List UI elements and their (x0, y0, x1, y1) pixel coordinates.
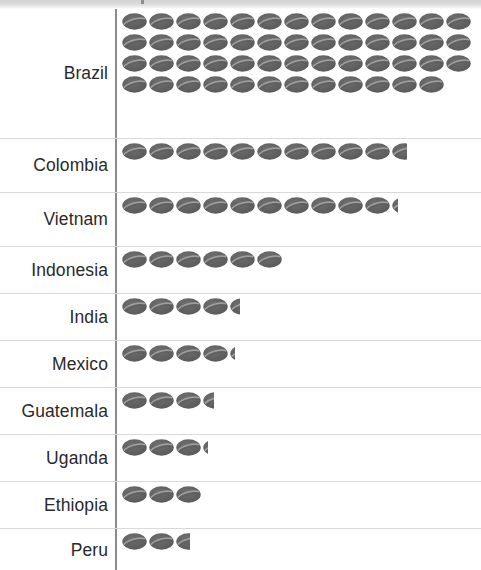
coffee-bean-icon (149, 345, 174, 362)
icon-slot (257, 251, 284, 272)
icon-slot (257, 143, 284, 164)
icon-slot (149, 298, 176, 319)
chart-row: Indonesia (0, 247, 481, 294)
chart-row: Ethiopia (0, 482, 481, 529)
coffee-bean-icon (176, 13, 201, 30)
coffee-bean-icon (419, 76, 444, 93)
coffee-bean-icon (230, 34, 255, 51)
icon-slot (338, 143, 365, 164)
coffee-bean-icon (311, 13, 336, 30)
icon-slot (230, 76, 257, 97)
coffee-bean-icon (365, 76, 390, 93)
coffee-bean-icon (419, 13, 444, 30)
coffee-bean-icon (149, 298, 174, 315)
coffee-bean-icon (257, 76, 282, 93)
coffee-bean-icon (446, 55, 471, 72)
icon-slot (284, 197, 311, 218)
coffee-bean-partial-icon (203, 392, 214, 409)
coffee-bean-icon (392, 55, 417, 72)
coffee-bean-icon (230, 143, 255, 160)
icon-slot (446, 55, 473, 76)
icon-slot (203, 13, 230, 34)
row-label-india: India (0, 294, 108, 340)
chart-row: Mexico (0, 341, 481, 388)
icon-slot (122, 486, 149, 507)
icon-slot (365, 143, 392, 164)
icon-slot (122, 533, 149, 554)
coffee-bean-icon (365, 143, 390, 160)
icon-slot (392, 34, 419, 55)
icon-slot (176, 13, 203, 34)
coffee-bean-icon (122, 13, 147, 30)
coffee-bean-icon (176, 439, 201, 456)
icon-slot (257, 76, 284, 97)
coffee-bean-icon (230, 197, 255, 214)
icon-slot (311, 143, 338, 164)
icon-slot (122, 13, 149, 34)
icon-slot (122, 34, 149, 55)
coffee-bean-icon (149, 55, 174, 72)
row-label-vietnam: Vietnam (0, 193, 108, 246)
chart-row: Vietnam (0, 193, 481, 247)
row-label-colombia: Colombia (0, 139, 108, 192)
icon-slot (203, 345, 230, 366)
icon-slot (257, 197, 284, 218)
chart-row: Peru (0, 529, 481, 570)
cropped-top-band (0, 0, 481, 9)
coffee-bean-icon (419, 34, 444, 51)
icon-slot (122, 197, 149, 218)
coffee-bean-icon (176, 143, 201, 160)
coffee-bean-icon (338, 197, 363, 214)
coffee-bean-icon (176, 392, 201, 409)
row-icons (122, 388, 479, 434)
coffee-bean-icon (338, 13, 363, 30)
coffee-bean-icon (122, 76, 147, 93)
icon-slot (149, 197, 176, 218)
icon-slot (149, 439, 176, 460)
coffee-bean-icon (284, 34, 309, 51)
coffee-bean-icon (203, 298, 228, 315)
icon-slot (176, 143, 203, 164)
row-icons (122, 341, 479, 387)
coffee-bean-icon (203, 143, 228, 160)
coffee-bean-icon (149, 392, 174, 409)
icon-slot (122, 143, 149, 164)
coffee-bean-icon (176, 76, 201, 93)
icon-slot (203, 143, 230, 164)
icon-slot (122, 251, 149, 272)
icon-slot (365, 13, 392, 34)
icon-slot (365, 76, 392, 97)
coffee-bean-icon (257, 34, 282, 51)
coffee-bean-icon (257, 143, 282, 160)
coffee-bean-icon (176, 55, 201, 72)
icon-slot (230, 13, 257, 34)
coffee-bean-icon (392, 34, 417, 51)
icon-slot (122, 298, 149, 319)
coffee-bean-icon (122, 486, 147, 503)
coffee-bean-icon (311, 55, 336, 72)
row-label-guatemala: Guatemala (0, 388, 108, 434)
coffee-bean-icon (203, 55, 228, 72)
coffee-bean-icon (365, 13, 390, 30)
coffee-bean-icon (149, 197, 174, 214)
coffee-bean-icon (338, 143, 363, 160)
icon-slot (365, 34, 392, 55)
icon-slot (419, 55, 446, 76)
coffee-bean-icon (149, 251, 174, 268)
icon-slot (149, 76, 176, 97)
icon-slot (338, 197, 365, 218)
coffee-bean-icon (338, 34, 363, 51)
icon-slot (284, 76, 311, 97)
icon-slot (392, 76, 419, 97)
chart-rows: BrazilColombiaVietnamIndonesiaIndiaMexic… (0, 9, 481, 570)
chart-row: Colombia (0, 139, 481, 193)
icon-slot (203, 34, 230, 55)
coffee-bean-partial-icon (392, 197, 398, 214)
coffee-bean-icon (122, 143, 147, 160)
coffee-bean-icon (149, 76, 174, 93)
coffee-bean-icon (176, 486, 201, 503)
icon-slot (203, 197, 230, 218)
coffee-bean-icon (176, 345, 201, 362)
icon-slot (176, 533, 203, 554)
icon-slot (122, 439, 149, 460)
